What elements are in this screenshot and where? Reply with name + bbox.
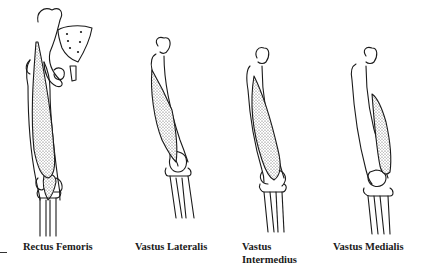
sacral-foramina <box>66 31 82 53</box>
quadriceps-illustration <box>0 0 422 265</box>
vastus-medialis-drawing <box>351 47 393 234</box>
margin-mark <box>0 252 7 253</box>
label-vastus-intermedius-line2: Intermedius <box>242 254 297 265</box>
label-vastus-lateralis: Vastus Lateralis <box>135 241 207 253</box>
vastus-lateralis-drawing <box>151 37 194 218</box>
rectus-femoris-drawing <box>26 9 92 236</box>
label-vastus-medialis: Vastus Medialis <box>333 241 404 253</box>
label-rectus-femoris: Rectus Femoris <box>23 241 93 253</box>
label-vastus-intermedius-line1: Vastus <box>242 241 271 253</box>
vastus-intermedius-drawing <box>247 48 286 232</box>
